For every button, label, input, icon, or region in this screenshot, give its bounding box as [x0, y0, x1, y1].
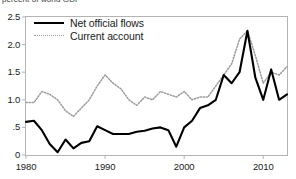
x-tick-label: 2000 — [164, 161, 204, 172]
legend-swatch-solid-icon — [34, 17, 64, 29]
legend-swatch-dotted-icon — [34, 30, 64, 42]
series-line-net-official-flows — [26, 31, 287, 152]
y-tick-label: 2.0 — [0, 39, 20, 50]
y-tick-label: .5 — [0, 121, 20, 132]
legend-item-net-official-flows: Net official flows — [34, 16, 184, 29]
chart-legend: Net official flows Current account — [34, 16, 184, 42]
y-tick-label: 1.0 — [0, 94, 20, 105]
legend-label-net-official-flows: Net official flows — [70, 17, 144, 29]
legend-label-current-account: Current account — [70, 30, 143, 42]
x-tick-label: 2010 — [243, 161, 283, 172]
x-tick-label: 1990 — [85, 161, 125, 172]
chart-figure: percent of world GDP 0.51.01.52.02.5 198… — [0, 0, 296, 179]
legend-item-current-account: Current account — [34, 29, 184, 42]
y-tick-label: 0 — [0, 149, 20, 160]
y-tick-label: 1.5 — [0, 66, 20, 77]
x-tick-label: 1980 — [6, 161, 46, 172]
y-tick-label: 2.5 — [0, 11, 20, 22]
series-line-current-account — [26, 31, 287, 117]
